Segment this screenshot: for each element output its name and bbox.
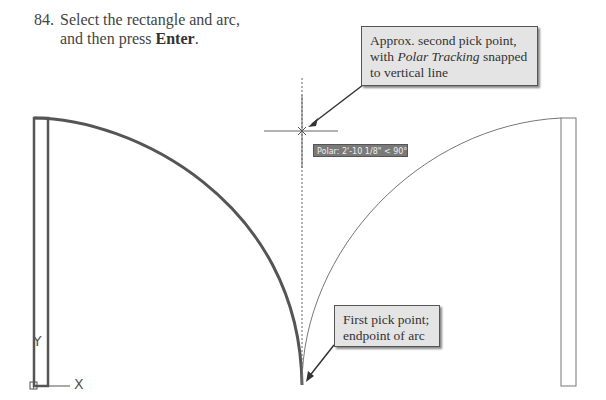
leader-second-pick: [312, 85, 363, 124]
callout-second-pick-point: Approx. second pick point, with Polar Tr…: [361, 26, 538, 86]
callout-text: First pick point; endpoint of arc: [343, 312, 429, 343]
ucs-y-label: Y: [33, 333, 42, 349]
polar-tracking-term: Polar Tracking: [397, 49, 479, 64]
leader-first-pick: [308, 345, 334, 378]
ucs-x-label: X: [74, 376, 84, 392]
callout-first-pick-point: First pick point; endpoint of arc: [334, 305, 440, 347]
right-door-rectangle[interactable]: [561, 118, 576, 386]
arrowhead-second-pick-icon: [308, 118, 318, 127]
left-swing-arc[interactable]: [34, 118, 302, 385]
polar-tracking-tooltip: Polar: 2'-10 1/8" < 90°: [313, 144, 408, 157]
